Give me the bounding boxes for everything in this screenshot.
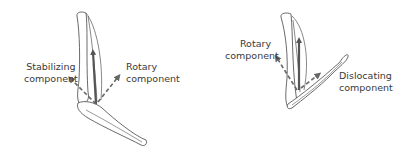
right-dislocating-line2: component xyxy=(339,82,393,94)
left-muscle-force-arrow xyxy=(93,52,96,104)
left-rotary-line1: Rotary xyxy=(126,61,180,73)
left-stabilizing-line2: component xyxy=(24,73,78,85)
right-rotary-line1: Rotary xyxy=(225,38,271,50)
left-humerus xyxy=(77,12,89,104)
left-rotary-label: Rotary component xyxy=(126,61,180,85)
left-stabilizing-line1: Stabilizing xyxy=(24,61,78,73)
right-dislocating-line1: Dislocating xyxy=(339,70,393,82)
left-stabilizing-label: Stabilizing component xyxy=(24,61,78,85)
right-dislocating-label: Dislocating component xyxy=(339,70,393,94)
right-rotary-label: Rotary component xyxy=(225,38,271,62)
right-arm-figure xyxy=(277,13,348,109)
left-rotary-line2: component xyxy=(126,73,180,85)
right-rotary-line2: component xyxy=(225,50,271,62)
